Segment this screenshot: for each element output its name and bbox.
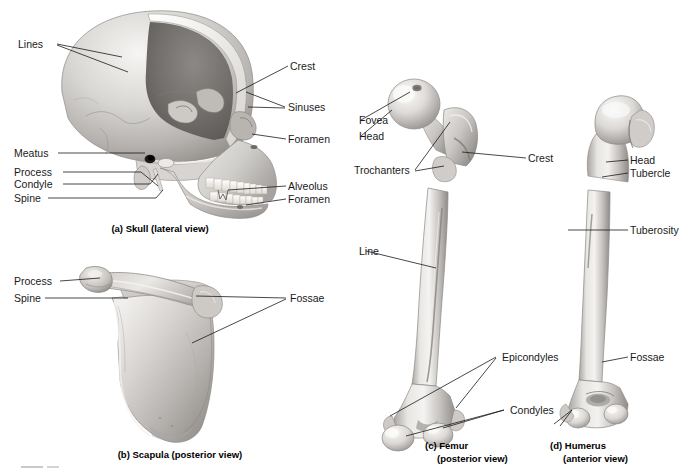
- skull-label-crest: Crest: [290, 60, 315, 72]
- panel-humerus: Head Tubercle Tuberosity Fossae (d) Hume…: [544, 0, 688, 475]
- caption-humerus-line2: (anterior view): [563, 453, 628, 465]
- skull-label-sinuses: Sinuses: [288, 101, 325, 113]
- humerus-label-tubercle: Tubercle: [630, 167, 670, 179]
- femur-label-line: Line: [359, 245, 379, 257]
- caption-femur-line2: (posterior view): [437, 453, 508, 465]
- skull-label-meatus: Meatus: [14, 147, 48, 159]
- femur-label-fovea: Fovea: [359, 114, 388, 126]
- scapula-label-process: Process: [14, 275, 52, 287]
- caption-skull: (a) Skull (lateral view): [111, 223, 208, 235]
- caption-femur-line1: (c) Femur: [425, 440, 468, 452]
- page-edge-artifact-2: [47, 466, 59, 468]
- panel-femur: Fovea Head Trochanters Crest Line Epicon…: [344, 0, 544, 475]
- caption-scapula: (b) Scapula (posterior view): [118, 449, 243, 461]
- scapula-label-spine: Spine: [14, 292, 41, 304]
- femur-label-trochanters: Trochanters: [354, 164, 410, 176]
- skull-label-foramen-upper: Foramen: [288, 133, 330, 145]
- humerus-label-fossae: Fossae: [630, 351, 664, 363]
- humerus-illustration: [544, 0, 688, 475]
- panel-scapula: Process Spine Fossae (b) Scapula (poster…: [0, 240, 344, 475]
- skull-label-condyle: Condyle: [14, 178, 53, 190]
- skull-label-process: Process: [14, 166, 52, 178]
- skull-label-spine: Spine: [14, 192, 41, 204]
- humerus-label-head: Head: [630, 154, 655, 166]
- humerus-label-tuberosity: Tuberosity: [630, 224, 679, 236]
- femur-label-head: Head: [359, 130, 384, 142]
- figure-plate: Lines Meatus Process Condyle Spine Crest…: [0, 0, 688, 475]
- scapula-label-fossae: Fossae: [290, 292, 324, 304]
- skull-label-alveolus: Alveolus: [288, 180, 328, 192]
- panel-skull: Lines Meatus Process Condyle Spine Crest…: [0, 0, 344, 240]
- skull-label-lines: Lines: [18, 38, 43, 50]
- skull-label-foramen-lower: Foramen: [288, 193, 330, 205]
- page-edge-artifact: [21, 466, 43, 468]
- caption-humerus-line1: (d) Humerus: [550, 440, 606, 452]
